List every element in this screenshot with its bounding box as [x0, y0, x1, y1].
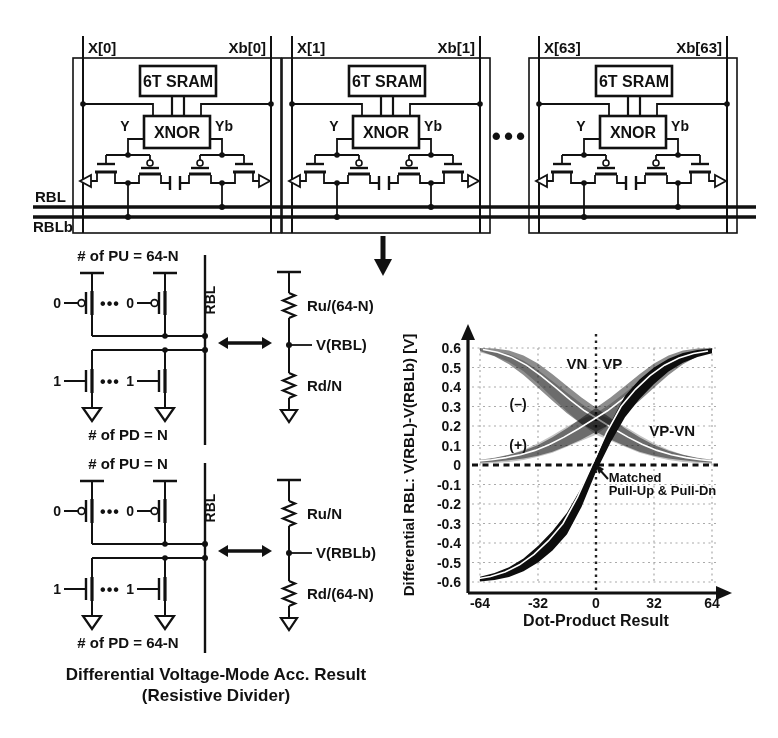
flow-down-arrow	[374, 236, 392, 276]
x1-label: X[1]	[297, 39, 325, 56]
figure-svg: X[0] Xb[0] 6T SRAM XNOR Y Yb X[1] Xb[1] …	[0, 0, 778, 738]
x63-label: X[63]	[544, 39, 581, 56]
pd-title-b: # of PD = 64-N	[77, 634, 178, 651]
bitline-label-b: RBL	[202, 493, 218, 522]
y-tick-label: 0.2	[442, 418, 462, 434]
caption-line-1: Differential Voltage-Mode Acc. Result	[66, 665, 367, 684]
node-label-b: V(RBLb)	[316, 544, 376, 561]
pu-title-a: # of PU = 64-N	[77, 247, 178, 264]
y-tick-label: 0.1	[442, 438, 462, 454]
rbl-line-label: RBL	[35, 188, 66, 205]
sram-label-0: 6T SRAM	[143, 73, 213, 90]
y-tick-label: 0.4	[442, 379, 462, 395]
y-tick-label: -0.4	[437, 535, 461, 551]
pd-gate-b2: 1	[126, 581, 134, 597]
pu-gate-b1: 0	[53, 503, 61, 519]
y-label-0: Y	[120, 118, 130, 134]
sram-xnor-array: X[0] Xb[0] 6T SRAM XNOR Y Yb X[1] Xb[1] …	[33, 36, 756, 235]
pd-gate-a1: 1	[53, 373, 61, 389]
x0-label: X[0]	[88, 39, 116, 56]
y-tick-label: 0.6	[442, 340, 462, 356]
y-tick-label: -0.5	[437, 555, 461, 571]
pull-up-down-block-a: # of PU = 64-N 0 0 ••• 1 1 ••• # of PD =…	[53, 247, 218, 445]
x-tick-label: 0	[592, 595, 600, 611]
rblb-line-label: RBLb	[33, 218, 73, 235]
y-tick-label: 0.3	[442, 399, 462, 415]
pd-gate-a2: 1	[126, 373, 134, 389]
pd-title-a: # of PD = N	[88, 426, 168, 443]
y-tick-label: 0.5	[442, 360, 462, 376]
pd-gate-b1: 1	[53, 581, 61, 597]
pu-dots-b: •••	[100, 503, 120, 520]
top-resistor-label-b: Ru/N	[307, 505, 342, 522]
resistive-divider-a: Ru/(64-N) V(RBL) Rd/N	[277, 272, 374, 422]
y-tick-label: -0.6	[437, 574, 461, 590]
y-tick-label: -0.1	[437, 477, 461, 493]
pupd-line-art-b	[64, 463, 208, 653]
y-axis-arrow	[461, 324, 475, 340]
x-tick-label: -32	[528, 595, 548, 611]
yb-label-1: Yb	[424, 118, 442, 134]
yb-label-0: Yb	[215, 118, 233, 134]
chart-annotation: VP-VN	[649, 422, 695, 439]
bottom-resistor-label-a: Rd/N	[307, 377, 342, 394]
y-tick-label: 0	[453, 457, 461, 473]
xb63-label: Xb[63]	[676, 39, 722, 56]
pull-up-down-block-b: # of PU = N 0 0 ••• 1 1 ••• # of PD = 64…	[53, 455, 218, 653]
resistive-divider-b: Ru/N V(RBLb) Rd/(64-N)	[277, 480, 376, 630]
y-label-2: Y	[576, 118, 586, 134]
node-label-a: V(RBL)	[316, 336, 367, 353]
xnor-label-0: XNOR	[154, 124, 201, 141]
figure-canvas: X[0] Xb[0] 6T SRAM XNOR Y Yb X[1] Xb[1] …	[0, 0, 778, 738]
bitline-label-a: RBL	[202, 285, 218, 314]
chart-ylabel: Differential RBL: V(RBL)-V(RBLb) [V]	[400, 334, 417, 596]
pd-dots-b: •••	[100, 581, 120, 598]
xnor-label-1: XNOR	[363, 124, 410, 141]
xb0-label: Xb[0]	[229, 39, 267, 56]
chart: -64-32032640.60.50.40.30.20.10-0.1-0.2-0…	[400, 324, 732, 629]
bottom-resistor-label-b: Rd/(64-N)	[307, 585, 374, 602]
y-tick-label: -0.3	[437, 516, 461, 532]
yb-label-2: Yb	[671, 118, 689, 134]
pupd-line-art-a	[64, 255, 208, 445]
pu-gate-a1: 0	[53, 295, 61, 311]
pu-dots-a: •••	[100, 295, 120, 312]
array-ellipsis: •••	[492, 121, 528, 151]
x-axis-arrow	[716, 586, 732, 600]
chart-plot-area: -64-32032640.60.50.40.30.20.10-0.1-0.2-0…	[437, 334, 720, 611]
x-tick-label: 32	[646, 595, 662, 611]
x-tick-label: -64	[470, 595, 490, 611]
chart-annotation: (–)	[510, 396, 527, 412]
pd-dots-a: •••	[100, 373, 120, 390]
top-resistor-label-a: Ru/(64-N)	[307, 297, 374, 314]
sram-label-2: 6T SRAM	[599, 73, 669, 90]
chart-annotation: (+)	[509, 437, 527, 453]
y-label-1: Y	[329, 118, 339, 134]
chart-annotation: Pull-Up & Pull-Dn	[609, 483, 717, 498]
caption: Differential Voltage-Mode Acc. Result (R…	[66, 665, 367, 705]
xnor-label-2: XNOR	[610, 124, 657, 141]
caption-line-2: (Resistive Divider)	[142, 686, 290, 705]
pu-title-b: # of PU = N	[88, 455, 168, 472]
sram-label-1: 6T SRAM	[352, 73, 422, 90]
pu-gate-b2: 0	[126, 503, 134, 519]
divider-line-art-a	[277, 272, 312, 422]
chart-annotation: VP	[602, 355, 622, 372]
chart-annotation: VN	[567, 355, 588, 372]
pu-gate-a2: 0	[126, 295, 134, 311]
y-tick-label: -0.2	[437, 496, 461, 512]
xb1-label: Xb[1]	[438, 39, 476, 56]
divider-line-art-b	[277, 480, 312, 630]
chart-xlabel: Dot-Product Result	[523, 612, 669, 629]
equiv-arrow-b	[218, 545, 272, 557]
equiv-arrow-a	[218, 337, 272, 349]
